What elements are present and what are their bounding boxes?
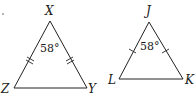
- geometry-diagram: X Z Y 58° J L K 58°: [0, 0, 196, 104]
- vertex-label-z: Z: [0, 82, 10, 96]
- angle-label-x: 58°: [40, 42, 60, 55]
- triangle-xyz: X Z Y 58°: [0, 4, 97, 96]
- vertex-label-x: X: [44, 4, 54, 18]
- stray-mark: [2, 13, 4, 15]
- vertex-label-y: Y: [88, 82, 97, 96]
- vertex-label-j: J: [143, 4, 152, 18]
- vertex-label-k: K: [184, 73, 195, 87]
- triangle-jkl: J L K 58°: [107, 4, 195, 87]
- vertex-label-l: L: [107, 73, 116, 87]
- angle-label-j: 58°: [140, 40, 160, 53]
